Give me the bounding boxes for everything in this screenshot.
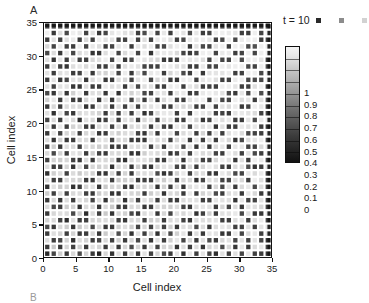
colorbar-tick bbox=[286, 70, 299, 71]
x-tick bbox=[141, 258, 142, 262]
colorbar-tick bbox=[286, 117, 299, 118]
panel-label-a: A bbox=[30, 4, 38, 16]
colorbar-tick-label: 0.1 bbox=[304, 192, 317, 203]
colorbar-tick-label: 0 bbox=[304, 204, 309, 215]
colorbar-tick bbox=[286, 82, 299, 83]
colorbar-tick bbox=[286, 94, 299, 95]
x-tick bbox=[43, 258, 44, 262]
colorbar-tick bbox=[286, 129, 299, 130]
x-tick bbox=[174, 258, 175, 262]
colorbar-tick-label: 1 bbox=[304, 87, 309, 98]
x-tick-label: 25 bbox=[201, 263, 212, 274]
colorbar-gradient bbox=[285, 46, 300, 163]
y-tick bbox=[39, 89, 43, 90]
x-tick-label: 20 bbox=[169, 263, 180, 274]
panel-label-b: B bbox=[30, 292, 37, 303]
colorbar-tick-label: 0.3 bbox=[304, 168, 317, 179]
y-tick-label: 20 bbox=[15, 118, 37, 129]
colorbar-tick-label: 0.9 bbox=[304, 98, 317, 109]
y-tick bbox=[39, 258, 43, 259]
x-tick bbox=[207, 258, 208, 262]
colorbar-tick-label: 0.5 bbox=[304, 145, 317, 156]
x-tick-label: 15 bbox=[136, 263, 147, 274]
y-tick bbox=[39, 157, 43, 158]
y-tick-label: 10 bbox=[15, 185, 37, 196]
y-tick bbox=[39, 224, 43, 225]
x-tick-label: 35 bbox=[267, 263, 278, 274]
heatmap-plot-area bbox=[43, 22, 272, 258]
x-axis-title: Cell index bbox=[133, 281, 181, 293]
x-tick bbox=[272, 258, 273, 262]
x-tick-label: 30 bbox=[234, 263, 245, 274]
y-tick-label: 0 bbox=[15, 253, 37, 264]
x-tick bbox=[108, 258, 109, 262]
colorbar-tick bbox=[286, 59, 299, 60]
colorbar-tick bbox=[286, 106, 299, 107]
legend-swatch-dark bbox=[316, 18, 321, 23]
y-tick-label: 15 bbox=[15, 151, 37, 162]
y-tick-label: 25 bbox=[15, 84, 37, 95]
x-tick bbox=[76, 258, 77, 262]
x-tick bbox=[239, 258, 240, 262]
colorbar-tick-label: 0.6 bbox=[304, 133, 317, 144]
heatmap-cells bbox=[44, 23, 271, 257]
legend-swatch-light bbox=[362, 18, 367, 23]
x-tick-label: 5 bbox=[73, 263, 78, 274]
x-tick-label: 10 bbox=[103, 263, 114, 274]
time-legend: t = 10 bbox=[283, 14, 367, 26]
figure-panel-a: A B 0510152025303505101520253035 Cell in… bbox=[0, 0, 369, 303]
time-legend-label: t = 10 bbox=[283, 14, 310, 26]
y-tick-label: 5 bbox=[15, 219, 37, 230]
x-tick-label: 0 bbox=[40, 263, 45, 274]
y-tick bbox=[39, 56, 43, 57]
colorbar-tick-label: 0.8 bbox=[304, 110, 317, 121]
y-tick bbox=[39, 123, 43, 124]
legend-swatch-mid bbox=[339, 18, 344, 23]
y-tick bbox=[39, 191, 43, 192]
colorbar: 10.90.80.70.60.50.40.30.20.10 bbox=[285, 46, 300, 163]
colorbar-tick bbox=[286, 152, 299, 153]
colorbar-tick bbox=[286, 141, 299, 142]
y-tick-label: 35 bbox=[15, 17, 37, 28]
y-tick-label: 30 bbox=[15, 50, 37, 61]
colorbar-tick-label: 0.4 bbox=[304, 157, 317, 168]
colorbar-tick-label: 0.7 bbox=[304, 122, 317, 133]
y-axis-title: Cell index bbox=[5, 116, 17, 164]
colorbar-tick-label: 0.2 bbox=[304, 180, 317, 191]
y-tick bbox=[39, 22, 43, 23]
